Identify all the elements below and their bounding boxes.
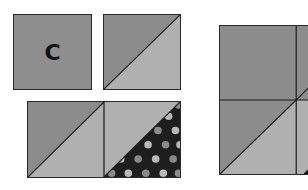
hst-shape [104, 15, 180, 89]
square-c: C [13, 14, 92, 90]
square-c-label: C [14, 15, 91, 89]
bottom-strip-shape [28, 102, 180, 177]
assembled-block [219, 25, 308, 175]
half-square-triangle-top [103, 14, 181, 90]
bottom-strip [27, 101, 181, 178]
assembled-block-shape [220, 26, 308, 174]
